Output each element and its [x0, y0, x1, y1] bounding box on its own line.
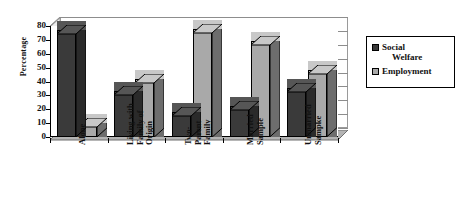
bar-top-shape [193, 24, 222, 34]
bar-top-face [193, 20, 222, 29]
x-axis-label-line: Alone [78, 124, 88, 145]
bar-front-face [57, 30, 76, 137]
y-axis-tick-mark [46, 26, 50, 27]
bar-side-shape [76, 21, 86, 137]
x-axis-label-line: Sampke [313, 104, 323, 145]
bar-top-shape [308, 65, 337, 75]
bar-side-face [270, 32, 280, 137]
y-axis-tick-label: 0 [22, 132, 46, 140]
bar-top-face [172, 103, 201, 112]
y-axis-tick-mark [46, 40, 50, 41]
bar-side-shape [270, 32, 280, 137]
bar-social-welfare-0 [57, 21, 76, 137]
y-axis-tick-label: 20 [22, 104, 46, 112]
legend-item-social-welfare: Social Welfare [372, 42, 450, 62]
x-axis-tick-mark [338, 138, 339, 143]
y-axis-tick-mark [46, 95, 50, 96]
y-axis-tick-mark [46, 109, 50, 110]
legend-label-line: Employment [382, 66, 432, 76]
y-axis-tick-label: 80 [22, 21, 46, 29]
x-axis-tick-mark [223, 138, 224, 143]
gridline [60, 17, 348, 18]
y-axis-tick-label: 60 [22, 49, 46, 57]
chart-legend: Social Welfare Employment [366, 36, 455, 88]
bar-top-shape [57, 25, 86, 35]
bar-top-shape [287, 83, 316, 93]
y-axis-ticks: 01020304050607080 [20, 0, 46, 209]
bar-top-face [308, 61, 337, 70]
y-axis-tick-label: 40 [22, 77, 46, 85]
y-axis-tick-label: 50 [22, 63, 46, 71]
y-axis-tick-mark [46, 68, 50, 69]
legend-label-line: Welfare [392, 52, 422, 62]
x-axis-label-line: Unmarried [304, 104, 314, 145]
x-axis-tick-mark [108, 138, 109, 143]
legend-label-social-welfare: Social Welfare [382, 42, 422, 62]
x-axis-label-2: Two-ParentFamily [184, 120, 213, 146]
legend-swatch-social-welfare [372, 44, 379, 51]
bar-side-shape [212, 20, 222, 137]
y-axis-tick-mark [46, 82, 50, 83]
x-axis-label-3: MarriedSample [246, 114, 265, 145]
bar-top-face [230, 97, 259, 106]
bar-top-shape [114, 86, 143, 96]
x-axis-label-line: Origin [145, 103, 155, 145]
legend-swatch-employment [372, 68, 379, 75]
bar-top-face [57, 21, 86, 30]
x-axis-label-4: UnmarriedSampke [304, 104, 323, 145]
bar-chart: Percentage 01020304050607080 AloneLiving… [0, 0, 464, 209]
legend-label-line: Social [382, 42, 422, 52]
bar-top-shape [251, 36, 280, 46]
bar-top-shape [172, 107, 201, 117]
x-axis-tick-mark [165, 138, 166, 143]
bar-top-face [251, 32, 280, 41]
x-axis-tick-mark [50, 138, 51, 143]
legend-item-employment: Employment [372, 66, 450, 76]
bar-top-face [287, 79, 316, 88]
y-axis-tick-mark [46, 123, 50, 124]
x-axis-label-line: Family [203, 120, 213, 146]
bar-side-face [76, 21, 86, 137]
y-axis-tick-label: 70 [22, 35, 46, 43]
legend-label-employment: Employment [382, 66, 432, 76]
y-axis-tick-label: 30 [22, 90, 46, 98]
bar-top-face [135, 70, 164, 79]
y-axis-tick-mark [46, 54, 50, 55]
bar-top-face [114, 82, 143, 91]
x-axis-tick-mark [280, 138, 281, 143]
x-axis-label-1: Living withFamily ofOrigin [126, 103, 155, 145]
bar-side-face [212, 20, 222, 137]
x-axis-label-0: Alone [78, 124, 88, 145]
bar-top-shape [230, 101, 259, 111]
x-axis-label-line: Two- [184, 120, 194, 146]
y-axis-tick-label: 10 [22, 118, 46, 126]
x-axis-label-line: Sample [256, 114, 266, 145]
